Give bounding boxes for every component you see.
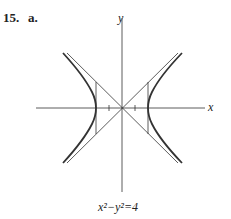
hyperbola-figure [0,0,231,219]
